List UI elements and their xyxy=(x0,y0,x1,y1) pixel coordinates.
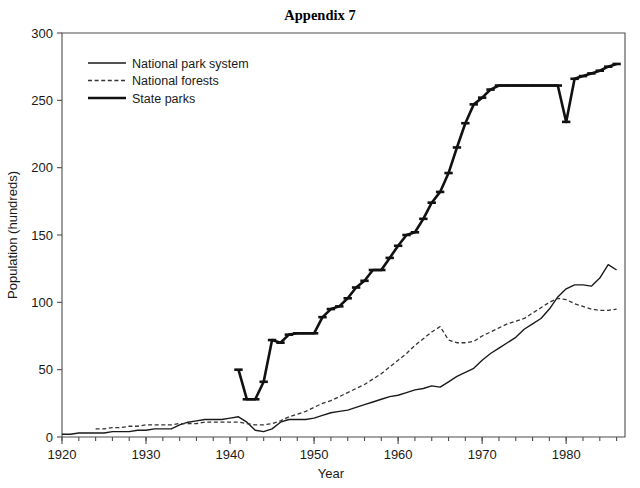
x-tick-label: 1980 xyxy=(552,447,581,462)
legend-item: National park system xyxy=(88,57,249,71)
y-axis-ticks xyxy=(57,33,62,437)
series-layer xyxy=(62,64,621,434)
legend-label: National park system xyxy=(132,57,249,71)
chart-container: Appendix 7 1920193019401950196019701980 … xyxy=(0,0,640,488)
x-axis-title: Year xyxy=(318,466,345,481)
legend-label: National forests xyxy=(132,74,219,88)
y-tick-label: 200 xyxy=(31,160,53,175)
x-axis-tick-labels: 1920193019401950196019701980 xyxy=(48,447,581,462)
y-axis-title: Population (hundreds) xyxy=(5,171,20,299)
y-tick-label: 50 xyxy=(39,362,53,377)
series-national-park-system xyxy=(62,265,617,435)
y-tick-label: 150 xyxy=(31,228,53,243)
x-tick-label: 1930 xyxy=(132,447,161,462)
y-tick-label: 300 xyxy=(31,26,53,41)
x-tick-label: 1950 xyxy=(300,447,329,462)
chart-legend: National park systemNational forestsStat… xyxy=(88,57,249,106)
legend-item: State parks xyxy=(88,92,195,106)
x-tick-label: 1920 xyxy=(48,447,77,462)
legend-item: National forests xyxy=(88,74,219,88)
legend-label: State parks xyxy=(132,92,195,106)
x-axis-ticks xyxy=(62,437,617,444)
y-tick-label: 100 xyxy=(31,295,53,310)
x-tick-label: 1960 xyxy=(384,447,413,462)
chart-title: Appendix 7 xyxy=(284,7,355,23)
x-tick-label: 1940 xyxy=(216,447,245,462)
series-national-forests xyxy=(96,298,617,429)
x-tick-label: 1970 xyxy=(468,447,497,462)
y-axis-tick-labels: 050100150200250300 xyxy=(31,26,53,445)
y-tick-label: 0 xyxy=(46,430,53,445)
y-tick-label: 250 xyxy=(31,93,53,108)
series-state-parks xyxy=(234,64,621,399)
line-chart: Appendix 7 1920193019401950196019701980 … xyxy=(0,0,640,488)
